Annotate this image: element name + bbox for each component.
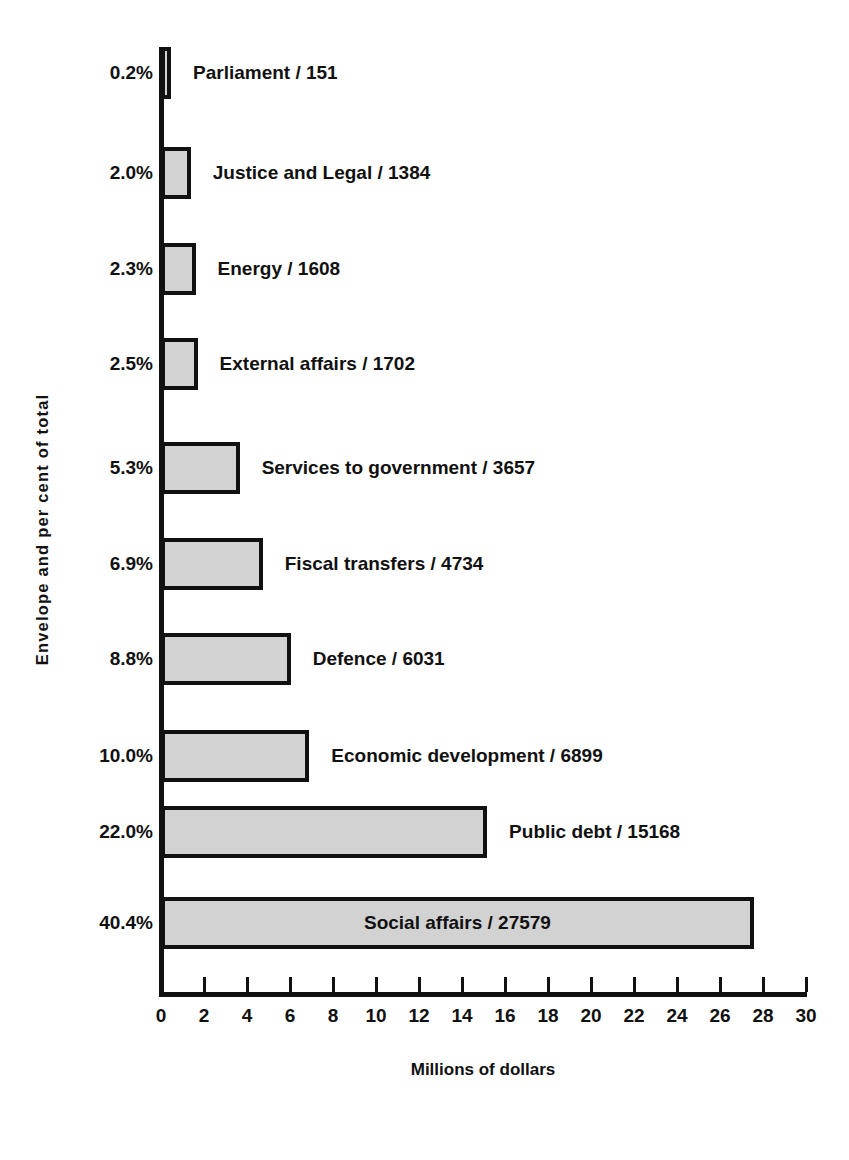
x-axis-tick — [547, 977, 550, 992]
bar-row: 0.2%Parliament / 151 — [0, 47, 849, 99]
bar-row: 10.0%Economic development / 6899 — [0, 730, 849, 782]
bar-value-label: Social affairs / 27579 — [161, 897, 754, 949]
bar-value-label: Public debt / 15168 — [509, 806, 680, 858]
bar-value-label: Justice and Legal / 1384 — [213, 147, 431, 199]
bar-row: 2.5%External affairs / 1702 — [0, 338, 849, 390]
x-axis-tick — [504, 977, 507, 992]
x-axis-tick — [332, 977, 335, 992]
bar-percent-label: 2.0% — [0, 147, 153, 199]
bar-rect — [161, 730, 309, 782]
bar-percent-label: 22.0% — [0, 806, 153, 858]
bar-percent-label: 6.9% — [0, 538, 153, 590]
x-axis-tick — [676, 977, 679, 992]
bar-value-label: Parliament / 151 — [193, 47, 338, 99]
bar-value-label: Defence / 6031 — [313, 633, 445, 685]
bar-rect — [161, 243, 196, 295]
plot-area: 0.2%Parliament / 1512.0%Justice and Lega… — [0, 0, 849, 1160]
x-axis-tick — [375, 977, 378, 992]
bar-row: 22.0%Public debt / 15168 — [0, 806, 849, 858]
x-axis-line — [159, 992, 807, 997]
x-axis-tick — [461, 977, 464, 992]
bar-percent-label: 2.5% — [0, 338, 153, 390]
x-axis-tick — [418, 977, 421, 992]
x-axis-tick — [590, 977, 593, 992]
bar-row: 40.4%Social affairs / 27579 — [0, 897, 849, 949]
x-axis-tick — [246, 977, 249, 992]
bar-row: 5.3%Services to government / 3657 — [0, 442, 849, 494]
x-axis-tick — [805, 977, 808, 992]
bar-rect — [161, 338, 198, 390]
bar-percent-label: 5.3% — [0, 442, 153, 494]
bar-rect — [161, 47, 171, 99]
x-axis-tick — [203, 977, 206, 992]
bar-rect — [161, 442, 240, 494]
x-axis-title: Millions of dollars — [159, 1060, 807, 1080]
x-axis-tick — [719, 977, 722, 992]
bar-chart: Envelope and per cent of total 0.2%Parli… — [0, 0, 849, 1160]
bar-value-label: Services to government / 3657 — [262, 442, 536, 494]
bar-row: 2.0%Justice and Legal / 1384 — [0, 147, 849, 199]
bar-rect — [161, 633, 291, 685]
bar-percent-label: 0.2% — [0, 47, 153, 99]
bar-value-label: Fiscal transfers / 4734 — [285, 538, 484, 590]
bar-percent-label: 8.8% — [0, 633, 153, 685]
bar-row: 2.3%Energy / 1608 — [0, 243, 849, 295]
x-axis-tick — [762, 977, 765, 992]
bar-row: 6.9%Fiscal transfers / 4734 — [0, 538, 849, 590]
bar-rect — [161, 147, 191, 199]
bar-percent-label: 2.3% — [0, 243, 153, 295]
bar-row: 8.8%Defence / 6031 — [0, 633, 849, 685]
bar-value-label: Economic development / 6899 — [331, 730, 602, 782]
x-axis-tick — [633, 977, 636, 992]
bar-percent-label: 10.0% — [0, 730, 153, 782]
bar-percent-label: 40.4% — [0, 897, 153, 949]
bar-rect — [161, 538, 263, 590]
bar-value-label: External affairs / 1702 — [220, 338, 415, 390]
bar-rect — [161, 806, 487, 858]
x-axis-tick — [289, 977, 292, 992]
bar-value-label: Energy / 1608 — [218, 243, 341, 295]
x-axis-tick-label: 30 — [776, 1005, 836, 1027]
